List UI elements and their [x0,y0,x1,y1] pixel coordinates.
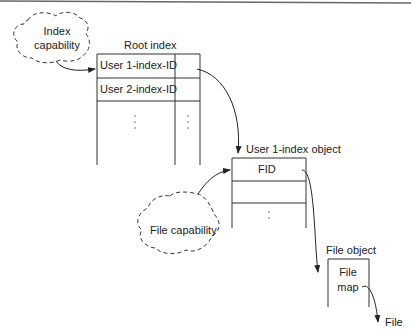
file-map-label: File map [332,265,364,295]
index-capability-label: Index capability [28,24,86,52]
file-label: File [385,316,403,328]
arrow-file-map-to-file [362,286,378,322]
root-index-row-2: User 2-index-ID [100,83,177,95]
arrow-index-capability-to-root [56,61,95,70]
file-object-title: File object [326,244,376,256]
top-border [0,1,411,3]
arrow-file-capability-to-fid [198,170,230,194]
root-index-title: Root index [124,39,177,51]
user-index-object-title: User 1-index object [246,143,341,155]
file-capability-cloud [138,192,219,254]
root-index-row-1: User 1-index-ID [100,59,177,71]
user-index-object-fid: FID [258,163,276,175]
file-capability-label: File capability [150,224,217,236]
arrow-fid-to-file-object [302,170,318,272]
arrow-root-to-user-index [197,69,239,153]
